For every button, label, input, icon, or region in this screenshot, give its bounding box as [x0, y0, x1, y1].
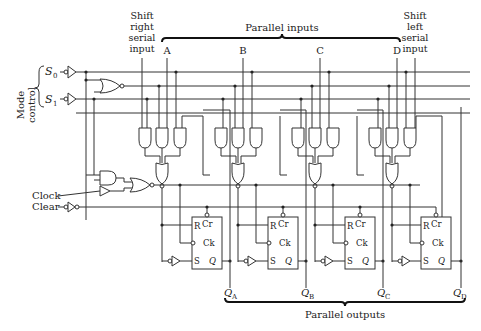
clear-inverter-icon [58, 202, 420, 212]
svg-text:Cr: Cr [431, 219, 443, 229]
svg-text:S: S [45, 65, 53, 78]
svg-text:Cr: Cr [355, 219, 367, 229]
svg-text:B: B [309, 293, 314, 301]
svg-text:Parallel outputs: Parallel outputs [305, 309, 385, 320]
svg-text:B: B [239, 45, 246, 56]
svg-text:Cr: Cr [202, 219, 214, 229]
s0-buffer-icon [60, 66, 470, 78]
svg-text:Q: Q [285, 256, 292, 266]
svg-text:control: control [26, 87, 37, 123]
svg-text:serial: serial [129, 32, 156, 43]
clock-label: Clock [32, 190, 61, 201]
svg-text:S: S [45, 93, 53, 106]
svg-text:left: left [407, 21, 423, 32]
svg-text:D: D [393, 45, 401, 56]
svg-text:Parallel inputs: Parallel inputs [245, 22, 318, 33]
svg-text:S: S [347, 256, 353, 266]
svg-text:0: 0 [53, 72, 57, 80]
svg-text:A: A [162, 45, 171, 56]
svg-text:Ck: Ck [356, 238, 369, 248]
flip-flop-a: R Cr Ck S Q [160, 183, 231, 269]
s1-label: S 1 [45, 93, 57, 108]
svg-text:Ck: Ck [432, 238, 445, 248]
svg-text:Mode: Mode [15, 91, 26, 120]
output-labels: Q A Q B Q C Q D [224, 287, 467, 301]
clock-gating-icon [86, 171, 420, 196]
svg-text:Cr: Cr [278, 219, 290, 229]
clock-line [58, 191, 100, 196]
flip-flop-b: R Cr Ck S Q [236, 183, 307, 269]
svg-text:C: C [316, 45, 324, 56]
svg-text:input: input [402, 43, 427, 54]
svg-text:Shift: Shift [131, 10, 154, 21]
input-lines [142, 58, 415, 128]
flip-flop-c: R Cr Ck S Q [313, 183, 384, 269]
s1-buffer-icon [60, 93, 470, 105]
svg-text:A: A [231, 293, 238, 301]
svg-text:Q: Q [438, 256, 445, 266]
svg-text:S: S [194, 256, 200, 266]
svg-text:Q: Q [224, 287, 232, 298]
parallel-inputs-label: Parallel inputs [162, 22, 400, 42]
svg-text:Q: Q [377, 287, 385, 298]
flip-flop-d: R Cr Ck S Q [390, 183, 462, 269]
svg-text:R: R [347, 221, 354, 231]
svg-text:R: R [270, 221, 277, 231]
svg-text:Q: Q [209, 256, 216, 266]
svg-text:C: C [385, 293, 390, 301]
svg-text:S: S [423, 256, 429, 266]
svg-text:R: R [423, 221, 430, 231]
svg-text:input: input [129, 43, 154, 54]
svg-text:right: right [130, 21, 154, 32]
shift-register-diagram: Mode control S 0 S 1 [0, 0, 481, 331]
shift-left-label: Shift left serial input [402, 10, 429, 54]
svg-text:serial: serial [402, 32, 429, 43]
svg-text:1: 1 [53, 100, 57, 108]
clear-label: Clear [32, 201, 60, 212]
svg-text:Q: Q [362, 256, 369, 266]
svg-text:Q: Q [301, 287, 309, 298]
svg-text:Q: Q [453, 287, 461, 298]
s0-label: S 0 [45, 65, 57, 80]
parallel-outputs-label: Parallel outputs [225, 298, 465, 320]
svg-text:Ck: Ck [203, 238, 216, 248]
svg-text:Shift: Shift [404, 10, 427, 21]
parallel-input-letters: A B C D [162, 45, 401, 56]
shift-right-label: Shift right serial input [129, 10, 156, 54]
mode-control-label: Mode control [15, 87, 37, 123]
svg-text:R: R [194, 221, 201, 231]
svg-text:S: S [270, 256, 276, 266]
svg-text:Ck: Ck [279, 238, 292, 248]
